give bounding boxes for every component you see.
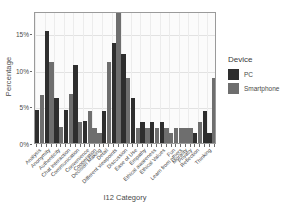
y-tick-mark xyxy=(30,71,32,72)
bar xyxy=(78,122,82,143)
y-axis-title-text: Percentage xyxy=(5,56,14,95)
bar xyxy=(35,110,39,143)
legend-swatch xyxy=(228,83,239,94)
legend-items: PCSmartphone xyxy=(228,69,304,94)
bar xyxy=(207,133,211,143)
bar xyxy=(88,111,92,143)
y-tick-mark xyxy=(30,107,32,108)
bar xyxy=(64,110,68,143)
y-tick-label: 10% xyxy=(16,67,29,74)
bar xyxy=(188,128,192,143)
plot-area xyxy=(34,12,216,144)
bar xyxy=(45,31,49,143)
bar xyxy=(116,13,120,143)
bar xyxy=(198,122,202,143)
bar-chart: Percentage 0%5%10%15% AnalysisAnonymityA… xyxy=(0,0,306,213)
legend-item[interactable]: PC xyxy=(228,69,304,80)
bar xyxy=(193,133,197,143)
bar xyxy=(212,78,216,143)
bar xyxy=(54,98,58,143)
bar xyxy=(126,78,130,143)
bar xyxy=(59,127,63,143)
bar xyxy=(131,98,135,143)
bar xyxy=(107,62,111,143)
bar xyxy=(174,128,178,143)
bar xyxy=(83,121,87,143)
bar xyxy=(49,62,53,143)
bar xyxy=(40,95,44,143)
bar xyxy=(179,128,183,143)
y-tick-mark xyxy=(30,144,32,145)
x-axis-title: I12 Category xyxy=(34,193,216,202)
bar xyxy=(150,122,154,143)
bar xyxy=(169,133,173,143)
legend-title: Device xyxy=(228,55,304,64)
bar xyxy=(140,122,144,143)
bars-layer xyxy=(35,13,215,143)
bar xyxy=(102,111,106,143)
y-axis-ticks: 0%5%10%15% xyxy=(14,12,32,144)
legend-label: Smartphone xyxy=(244,85,279,92)
legend-swatch xyxy=(228,69,239,80)
bar xyxy=(164,128,168,143)
legend-label: PC xyxy=(244,71,253,78)
y-tick-mark xyxy=(30,34,32,35)
y-tick-label: 0% xyxy=(20,141,29,148)
bar xyxy=(136,128,140,143)
bar xyxy=(92,128,96,143)
y-tick-label: 5% xyxy=(20,104,29,111)
bar xyxy=(73,65,77,143)
bar xyxy=(183,128,187,143)
bar xyxy=(69,94,73,143)
y-tick-label: 15% xyxy=(16,31,29,38)
legend-item[interactable]: Smartphone xyxy=(228,83,304,94)
bar xyxy=(160,122,164,143)
bar xyxy=(203,111,207,143)
bar xyxy=(145,128,149,143)
bar xyxy=(112,43,116,143)
bar xyxy=(97,133,101,143)
bar xyxy=(155,128,159,143)
bar xyxy=(121,54,125,143)
legend: Device PCSmartphone xyxy=(228,55,304,97)
x-axis-tick-labels: AnalysisAnonymityAuthenticityChat Intera… xyxy=(34,147,216,191)
